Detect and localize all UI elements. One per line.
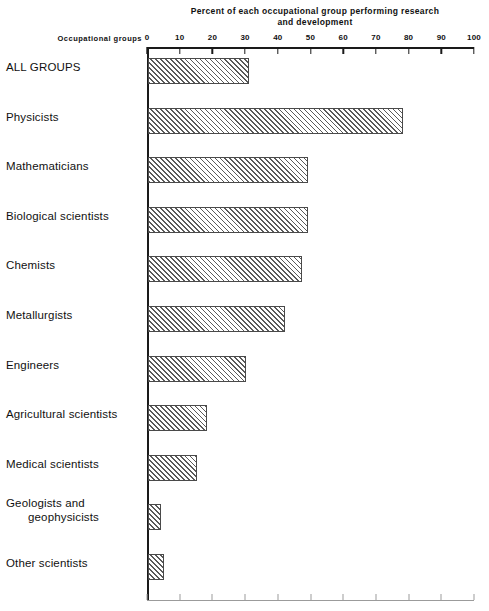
bar-chart: Percent of each occupational group perfo… bbox=[0, 0, 489, 611]
x-tick-label-20: 20 bbox=[208, 33, 217, 42]
bar-agricultural-scientists bbox=[148, 405, 207, 431]
x-tick-mark-bottom-70 bbox=[375, 594, 376, 600]
x-tick-label-70: 70 bbox=[371, 33, 380, 42]
bar-geologists-and-geophysicists bbox=[148, 504, 161, 530]
category-label-other-scientists: Other scientists bbox=[6, 557, 141, 571]
x-tick-label-10: 10 bbox=[175, 33, 184, 42]
x-tick-mark-bottom-20 bbox=[212, 594, 213, 600]
x-tick-mark-40 bbox=[277, 47, 278, 54]
category-label-geologists-and-geophysicists: Geologists andgeophysicists bbox=[6, 497, 141, 523]
bar-engineers bbox=[148, 356, 246, 382]
x-tick-mark-50 bbox=[310, 47, 311, 54]
bar-row: Mathematicians bbox=[0, 157, 489, 183]
chart-title-line-1: Percent of each occupational group perfo… bbox=[191, 6, 439, 16]
chart-title-line-2: and development bbox=[277, 17, 352, 27]
category-label-chemists: Chemists bbox=[6, 259, 141, 273]
x-tick-mark-60 bbox=[342, 47, 343, 54]
x-tick-label-40: 40 bbox=[273, 33, 282, 42]
bar-other-scientists bbox=[148, 554, 164, 580]
bar-row: Agricultural scientists bbox=[0, 405, 489, 431]
y-axis-title: Occupational groups bbox=[22, 34, 142, 43]
bar-row: Geologists andgeophysicists bbox=[0, 504, 489, 530]
x-tick-label-100: 100 bbox=[467, 33, 481, 42]
category-label-physicists: Physicists bbox=[6, 111, 141, 125]
x-tick-label-60: 60 bbox=[339, 33, 348, 42]
category-label-engineers: Engineers bbox=[6, 359, 141, 373]
bar-row: Chemists bbox=[0, 256, 489, 282]
bar-all-groups bbox=[148, 58, 249, 84]
category-label-biological-scientists: Biological scientists bbox=[6, 210, 141, 224]
x-tick-mark-bottom-10 bbox=[179, 594, 180, 600]
x-tick-mark-0 bbox=[146, 47, 147, 54]
x-tick-mark-90 bbox=[441, 47, 442, 54]
bar-row: Other scientists bbox=[0, 554, 489, 580]
x-tick-mark-70 bbox=[375, 47, 376, 54]
bar-physicists bbox=[148, 108, 403, 134]
bar-row: Medical scientists bbox=[0, 455, 489, 481]
chart-title: Percent of each occupational group perfo… bbox=[150, 6, 480, 28]
x-tick-mark-bottom-90 bbox=[441, 594, 442, 600]
bar-mathematicians bbox=[148, 157, 308, 183]
x-tick-mark-bottom-80 bbox=[408, 594, 409, 600]
x-tick-mark-10 bbox=[179, 47, 180, 54]
x-tick-mark-30 bbox=[244, 47, 245, 54]
category-label-agricultural-scientists: Agricultural scientists bbox=[6, 408, 141, 422]
x-tick-label-50: 50 bbox=[306, 33, 315, 42]
x-axis-line-bottom bbox=[147, 600, 474, 601]
x-tick-mark-bottom-30 bbox=[245, 594, 246, 600]
category-label-all-groups: ALL GROUPS bbox=[6, 61, 141, 75]
x-tick-mark-bottom-0 bbox=[147, 594, 148, 600]
x-tick-label-30: 30 bbox=[240, 33, 249, 42]
x-tick-mark-bottom-40 bbox=[277, 594, 278, 600]
bar-metallurgists bbox=[148, 306, 285, 332]
x-tick-label-90: 90 bbox=[437, 33, 446, 42]
x-tick-mark-bottom-50 bbox=[310, 594, 311, 600]
x-tick-label-0: 0 bbox=[145, 33, 150, 42]
category-label-medical-scientists: Medical scientists bbox=[6, 458, 141, 472]
bar-chemists bbox=[148, 256, 302, 282]
bar-row: ALL GROUPS bbox=[0, 58, 489, 84]
bar-row: Metallurgists bbox=[0, 306, 489, 332]
bar-medical-scientists bbox=[148, 455, 197, 481]
x-tick-label-80: 80 bbox=[404, 33, 413, 42]
bar-row: Biological scientists bbox=[0, 207, 489, 233]
x-tick-mark-80 bbox=[408, 47, 409, 54]
x-tick-mark-20 bbox=[212, 47, 213, 54]
bar-row: Physicists bbox=[0, 108, 489, 134]
x-tick-mark-bottom-60 bbox=[343, 594, 344, 600]
x-tick-mark-bottom-100 bbox=[474, 594, 475, 600]
category-label-line-1: Geologists and bbox=[6, 497, 85, 509]
bar-biological-scientists bbox=[148, 207, 308, 233]
bar-row: Engineers bbox=[0, 356, 489, 382]
x-tick-mark-100 bbox=[473, 47, 474, 54]
category-label-mathematicians: Mathematicians bbox=[6, 160, 141, 174]
category-label-line-2: geophysicists bbox=[6, 511, 141, 524]
category-label-metallurgists: Metallurgists bbox=[6, 309, 141, 323]
